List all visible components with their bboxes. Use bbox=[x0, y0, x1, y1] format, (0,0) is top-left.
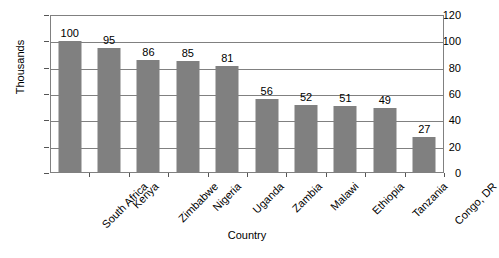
bar-value-label: 86 bbox=[142, 47, 154, 58]
x-tick-mark bbox=[247, 173, 248, 177]
bar-value-label: 27 bbox=[418, 124, 430, 135]
bar-value-label: 51 bbox=[339, 93, 351, 104]
x-category-label: Ethiopia bbox=[369, 180, 406, 217]
x-category-label: Uganda bbox=[251, 180, 287, 216]
x-tick-mark bbox=[168, 173, 169, 177]
bar[interactable] bbox=[98, 48, 121, 173]
bar-slot: 86 bbox=[129, 15, 168, 173]
x-tick-mark bbox=[89, 173, 90, 177]
y-tick-mark bbox=[44, 68, 49, 69]
y-axis-title: Thousands bbox=[12, 7, 28, 127]
bar[interactable] bbox=[176, 61, 199, 173]
x-tick-mark bbox=[129, 173, 130, 177]
bar-value-label: 95 bbox=[103, 35, 115, 46]
x-category-label: Tanzania bbox=[410, 180, 450, 220]
y-tick-mark bbox=[44, 94, 49, 95]
y-tick-mark bbox=[44, 15, 49, 16]
x-tick-mark bbox=[208, 173, 209, 177]
y-tick-mark bbox=[44, 120, 49, 121]
bar-slot: 81 bbox=[208, 15, 247, 173]
bar-value-label: 85 bbox=[182, 48, 194, 59]
bar[interactable] bbox=[58, 41, 81, 173]
bar-value-label: 52 bbox=[300, 92, 312, 103]
x-tick-mark bbox=[444, 173, 445, 177]
x-category-label: Malawi bbox=[328, 180, 361, 213]
y-tick-mark bbox=[44, 147, 49, 148]
bar-slot: 51 bbox=[326, 15, 365, 173]
bar[interactable] bbox=[373, 108, 396, 173]
bar[interactable] bbox=[295, 105, 318, 173]
bar-slot: 85 bbox=[168, 15, 207, 173]
y-tick-mark bbox=[44, 173, 49, 174]
x-tick-mark bbox=[405, 173, 406, 177]
x-axis-title: Country bbox=[50, 229, 444, 241]
bar-slot: 27 bbox=[405, 15, 444, 173]
bar[interactable] bbox=[216, 66, 239, 173]
bar[interactable] bbox=[137, 60, 160, 173]
bar[interactable] bbox=[334, 106, 357, 173]
bar[interactable] bbox=[413, 137, 436, 173]
bar-slot: 49 bbox=[365, 15, 404, 173]
bar-value-label: 49 bbox=[379, 95, 391, 106]
x-tick-mark bbox=[365, 173, 366, 177]
bar-slot: 56 bbox=[247, 15, 286, 173]
x-tick-mark bbox=[286, 173, 287, 177]
bars-layer: 100958685815652514927 bbox=[50, 15, 444, 173]
bar-value-label: 56 bbox=[261, 86, 273, 97]
x-category-label: Congo, DR bbox=[452, 180, 499, 227]
x-category-label: Zambia bbox=[289, 180, 323, 214]
bar[interactable] bbox=[255, 99, 278, 173]
bar-slot: 100 bbox=[50, 15, 89, 173]
bar-slot: 52 bbox=[286, 15, 325, 173]
bar-value-label: 81 bbox=[221, 53, 233, 64]
y-tick-mark bbox=[44, 41, 49, 42]
bar-slot: 95 bbox=[89, 15, 128, 173]
bar-value-label: 100 bbox=[61, 28, 79, 39]
x-tick-mark bbox=[326, 173, 327, 177]
